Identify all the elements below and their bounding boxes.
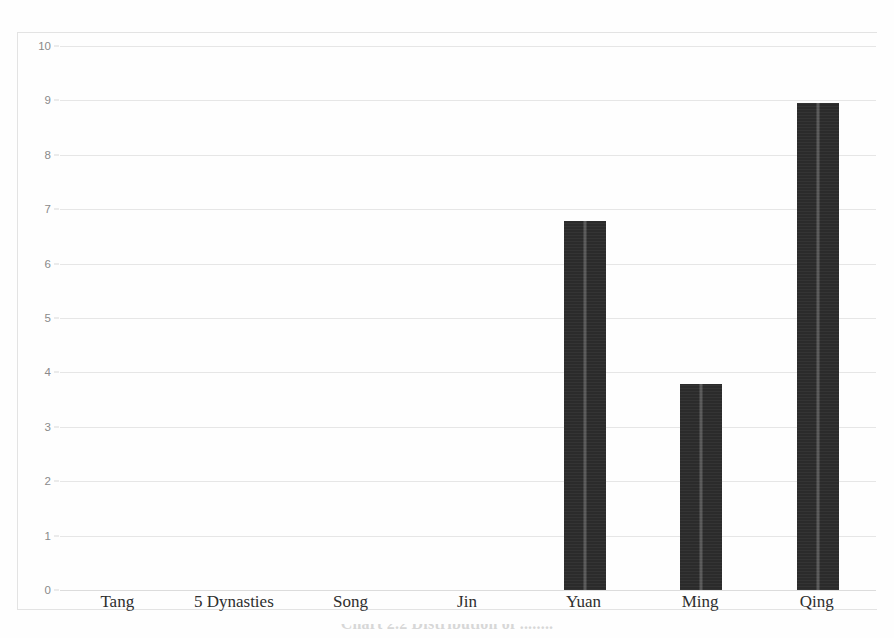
- y-tick-label: 0: [45, 584, 51, 596]
- cut-off-heading-above-figure: ........: [0, 0, 894, 30]
- y-tick-dash: [54, 209, 59, 210]
- x-axis-label-jin: Jin: [457, 592, 477, 612]
- bar-qing: [797, 103, 839, 590]
- bar-slot: [60, 46, 177, 590]
- y-tick-dash: [54, 590, 59, 591]
- x-axis-labels-group: Tang5 DynastiesSongJinYuanMingQing: [59, 592, 875, 618]
- bar-slot: [759, 46, 876, 590]
- bar-slot: [177, 46, 294, 590]
- y-tick-label: 1: [45, 530, 51, 542]
- y-tick-label: 2: [45, 475, 51, 487]
- y-tick-label: 5: [45, 312, 51, 324]
- x-axis-label-qing: Qing: [800, 592, 834, 612]
- y-tick-dash: [54, 426, 59, 427]
- plot-area: 012345678910: [60, 46, 876, 590]
- y-tick-label: 9: [45, 94, 51, 106]
- x-axis-label-5-dynasties: 5 Dynasties: [194, 592, 274, 612]
- scanned-figure-page: ........ 012345678910 Tang5 DynastiesSon…: [0, 0, 894, 638]
- bar-slot: [526, 46, 643, 590]
- y-tick-dash: [54, 100, 59, 101]
- y-tick-dash: [54, 372, 59, 373]
- bar-slot: [643, 46, 760, 590]
- bar-slot: [410, 46, 527, 590]
- y-tick-label: 10: [38, 40, 51, 52]
- x-axis-label-song: Song: [333, 592, 368, 612]
- y-tick-dash: [54, 46, 59, 47]
- bar-ming: [680, 384, 722, 590]
- bar-slot: [293, 46, 410, 590]
- gridline-0: [60, 590, 876, 591]
- figure-caption-text: Chart 2.2 Distribution of ........: [341, 624, 554, 633]
- bar-yuan: [564, 221, 606, 590]
- y-tick-dash: [54, 154, 59, 155]
- y-tick-label: 4: [45, 366, 51, 378]
- y-tick-dash: [54, 535, 59, 536]
- y-tick-label: 3: [45, 421, 51, 433]
- y-tick-label: 7: [45, 203, 51, 215]
- x-axis-label-yuan: Yuan: [566, 592, 601, 612]
- x-axis-label-ming: Ming: [682, 592, 719, 612]
- y-tick-label: 8: [45, 149, 51, 161]
- figure-caption-cut-off: Chart 2.2 Distribution of ........: [0, 624, 894, 638]
- chart-frame: 012345678910: [17, 32, 877, 610]
- x-axis-label-tang: Tang: [100, 592, 134, 612]
- y-tick-label: 6: [45, 258, 51, 270]
- y-tick-dash: [54, 318, 59, 319]
- y-tick-dash: [54, 263, 59, 264]
- y-tick-dash: [54, 481, 59, 482]
